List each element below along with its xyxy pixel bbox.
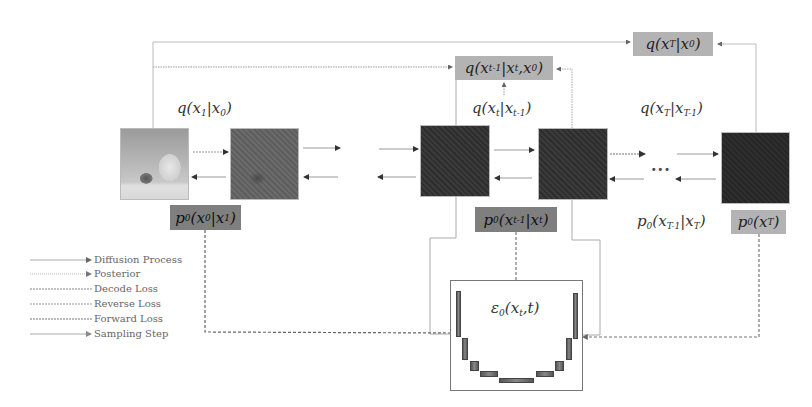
image-xt-minus-1 — [420, 125, 490, 197]
unet-block-enc1 — [456, 291, 461, 337]
unet-noise-predictor: ε0(xt,t) — [450, 280, 583, 391]
unet-block-dec4 — [536, 371, 554, 377]
legend-posterior: Posterior — [30, 267, 140, 280]
solid-arrow-icon — [30, 330, 92, 338]
image-x0 — [120, 128, 189, 200]
solid-arrow-icon — [30, 256, 92, 264]
box-q-xT-x0: q(xT|x0) — [633, 32, 713, 56]
unet-block-dec3 — [555, 361, 564, 371]
image-xT — [721, 132, 790, 204]
label-eps: ε0(xt,t) — [491, 299, 539, 318]
legend-sampling-step: Sampling Step — [30, 327, 168, 340]
legend-reverse-loss: Reverse Loss — [30, 297, 161, 310]
unet-block-enc4 — [480, 371, 498, 377]
connector-lines — [0, 0, 812, 407]
ellipsis: ··· — [651, 160, 671, 179]
line-decode-loss — [205, 230, 450, 333]
unet-block-enc3 — [470, 361, 479, 371]
dashed-line-icon — [30, 315, 92, 323]
unet-block-dec1 — [573, 293, 578, 339]
label-q-xT-xT1: q(xT|xT-1) — [640, 99, 703, 118]
unet-block-dec2 — [566, 338, 572, 360]
legend-forward-loss: Forward Loss — [30, 312, 163, 325]
dashed-line-icon — [30, 285, 92, 293]
dashed-line-icon — [30, 300, 92, 308]
box-q-posterior: q(xt-1|xt,x0) — [455, 56, 553, 80]
label-q-x1-x0: q(x1|x0) — [177, 99, 232, 118]
box-p-xt1-xt: p0(xt-1|xt) — [475, 207, 557, 232]
legend-decode-loss: Decode Loss — [30, 282, 158, 295]
label-q-xt-xt1: q(xt|xt-1) — [472, 99, 531, 118]
unet-block-bottleneck — [499, 378, 534, 383]
line-xt-to-posterior — [557, 69, 572, 128]
image-xt — [538, 128, 608, 200]
unet-block-enc2 — [462, 338, 468, 360]
image-x1 — [230, 128, 299, 200]
box-p-x0-x1: p0(x0|x1) — [170, 205, 241, 230]
line-forward-loss — [583, 234, 759, 337]
box-p-xT: p0(xT) — [731, 210, 786, 234]
dotted-arrow-icon — [30, 270, 92, 278]
legend-diffusion-process: Diffusion Process — [30, 253, 182, 266]
label-p-xT1-xT: p0(xT-1|xT) — [637, 212, 706, 231]
line-xT-to-qT — [718, 44, 756, 132]
